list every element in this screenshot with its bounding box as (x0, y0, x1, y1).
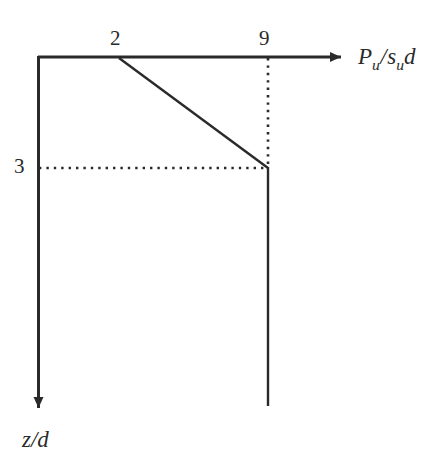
x-axis-label: Pu/sud (358, 45, 415, 72)
resistance-slope-segment (119, 58, 268, 168)
y-axis-label: z/d (22, 428, 49, 451)
x-axis-label-s: s (387, 44, 396, 69)
figure-container: 2 9 3 Pu/sud z/d (0, 0, 439, 459)
x-tick-label-start: 2 (110, 28, 121, 49)
x-axis-label-s-subscript: u (396, 56, 404, 73)
y-tick-label-depth: 3 (14, 156, 25, 177)
x-axis-label-p: P (358, 44, 372, 69)
x-tick-label-end: 9 (259, 28, 270, 49)
x-axis-label-p-subscript: u (372, 56, 380, 73)
x-axis-label-d: d (404, 44, 416, 69)
